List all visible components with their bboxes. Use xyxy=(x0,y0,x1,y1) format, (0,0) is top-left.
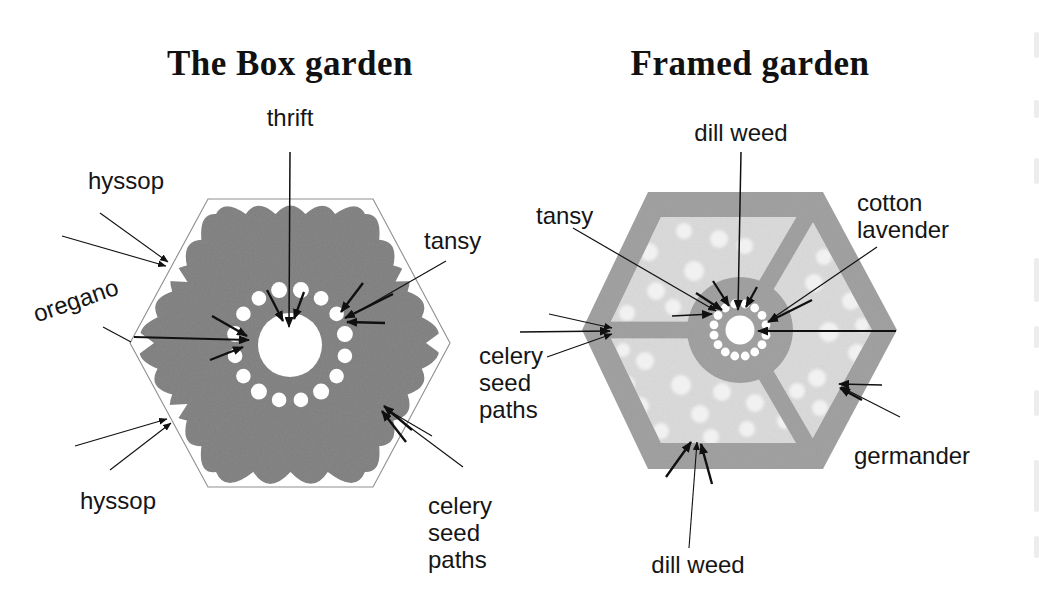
thrift-dot xyxy=(251,384,267,400)
planting-dot xyxy=(665,299,681,315)
thrift-dot xyxy=(236,307,251,322)
box-garden-title: The Box garden xyxy=(152,44,428,84)
hub-dot xyxy=(710,331,719,340)
pointer-line xyxy=(289,152,290,327)
planting-dot xyxy=(710,230,728,248)
thrift-dot xyxy=(252,291,267,306)
hub-dot xyxy=(710,320,719,329)
label-dill-weed-top: dill weed xyxy=(694,119,787,146)
thrift-dot xyxy=(337,326,353,342)
thrift-dot xyxy=(294,393,309,408)
thrift-dot xyxy=(329,307,344,322)
thrift-dot xyxy=(293,282,309,298)
hub-dot xyxy=(730,352,739,361)
edge-artifact xyxy=(1034,258,1039,302)
label-celery-seed-paths-framed: celery seed paths xyxy=(479,342,543,423)
thrift-dot xyxy=(236,369,251,384)
planting-dot xyxy=(819,322,839,342)
hub-dot xyxy=(762,331,771,340)
hub-dot xyxy=(714,311,723,320)
thrift-dot xyxy=(314,291,329,306)
hub-dot xyxy=(750,304,759,313)
label-germander: germander xyxy=(854,442,970,469)
label-thrift: thrift xyxy=(267,104,314,131)
hub-dot xyxy=(758,340,767,349)
edge-artifact xyxy=(1034,32,1039,58)
hub-center-circle xyxy=(726,316,755,345)
pointer-line xyxy=(347,322,385,323)
pointer-line xyxy=(520,331,610,332)
thrift-dot xyxy=(313,384,329,400)
planting-dot xyxy=(647,282,665,300)
edge-artifact xyxy=(1034,536,1039,558)
planting-dot xyxy=(619,305,635,321)
pointer-line xyxy=(103,327,131,342)
planting-dot xyxy=(739,421,755,437)
label-hyssop-top: hyssop xyxy=(88,167,164,194)
box-garden-drawing xyxy=(62,152,463,487)
thrift-dot xyxy=(272,393,287,408)
edge-artifact xyxy=(1034,390,1039,416)
hub-dot xyxy=(721,348,730,357)
thrift-dot xyxy=(338,349,353,364)
framed-garden-title: Framed garden xyxy=(618,44,882,84)
label-dill-weed-bottom: dill weed xyxy=(651,551,744,578)
edge-artifact xyxy=(1034,100,1039,118)
edge-artifact xyxy=(1034,158,1039,184)
thrift-dot xyxy=(329,369,344,384)
hub-dot xyxy=(714,340,723,349)
garden-plans-figure: The Box garden Framed garden thrift hyss… xyxy=(0,0,1039,603)
planting-dot xyxy=(789,383,805,399)
edge-artifact xyxy=(1034,460,1039,512)
planting-dot xyxy=(684,261,704,281)
hub-dot xyxy=(758,311,767,320)
planting-dot xyxy=(671,375,691,395)
planting-dot xyxy=(812,400,828,416)
page-edge-artifacts xyxy=(1034,32,1039,558)
edge-artifact xyxy=(1034,326,1039,348)
hub-dot xyxy=(741,352,750,361)
pointer-line xyxy=(839,384,882,385)
planting-dot xyxy=(676,223,692,239)
planting-dot xyxy=(703,429,719,445)
thrift-dot xyxy=(271,282,287,298)
label-hyssop-bottom: hyssop xyxy=(80,487,156,514)
pointer-line xyxy=(62,236,166,266)
hub-dot xyxy=(750,348,759,357)
label-cotton-lavender: cotton lavender xyxy=(857,189,949,243)
pointer-line xyxy=(100,213,168,262)
planting-dot xyxy=(691,405,709,423)
pointer-line xyxy=(110,423,171,470)
planting-dot xyxy=(636,352,654,370)
pointer-line xyxy=(75,419,167,446)
label-tansy-framed: tansy xyxy=(536,202,593,229)
label-celery-seed-paths-box: celery seed paths xyxy=(428,492,492,573)
planting-dot xyxy=(746,394,764,412)
planting-dot xyxy=(713,383,731,401)
label-tansy-box: tansy xyxy=(424,227,481,254)
box-garden-center-circle xyxy=(258,313,322,377)
planting-dot xyxy=(808,369,826,387)
